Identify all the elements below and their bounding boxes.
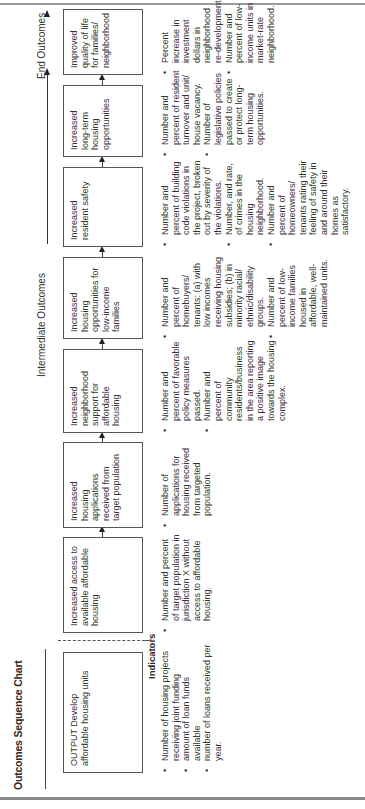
intermediate-outcomes-label: Intermediate Outcomes: [36, 273, 47, 377]
chart-title: Outcomes Sequence Chart: [12, 660, 24, 790]
indicator-item: Number and percent of favorable policy m…: [160, 339, 202, 421]
indicator-item: Number and percent of low-income familie…: [266, 247, 330, 327]
indicator-item: Number and percent of target population …: [160, 531, 213, 621]
intermediate-outcomes-arrow: [47, 74, 48, 244]
box-access-affordable-housing: Increased access to available affordable…: [63, 537, 143, 633]
indicators-long-term: Number and percent of resident turnover …: [160, 69, 266, 157]
box-resident-safety: Increased resident safety: [63, 167, 143, 247]
indicators-low-income: Number and percent of homebuyers/ tenant…: [160, 247, 330, 339]
indicator-item: Number and percent of community resident…: [202, 339, 287, 421]
indicators-safety: Number and percent of building code viol…: [160, 155, 351, 247]
flow-arrow-3: [102, 343, 103, 349]
outcomes-sequence-chart-page: Outcomes Sequence Chart Intermediate Out…: [0, 0, 365, 809]
indicator-item: Number of housing projects receiving joi…: [160, 643, 181, 761]
output-outcome-divider: [58, 640, 150, 641]
end-outcomes-label: End Outcomes: [36, 13, 47, 79]
indicators-quality-of-life: Percent increase in investment dollars i…: [160, 0, 277, 75]
indicator-item: Number and percent of resident turnover …: [160, 69, 202, 145]
flow-arrow-5: [102, 161, 103, 167]
flow-arrow-1: [102, 531, 103, 537]
indicator-item: Number and percent of low-income units i…: [224, 0, 277, 63]
box-housing-applications: Increased housing applications received …: [63, 442, 143, 528]
indicators-output: Number of housing projects receiving joi…: [160, 643, 224, 773]
box-long-term-housing: Increased long-term housing opportunitie…: [63, 85, 143, 157]
flow-arrow-2: [102, 437, 103, 442]
indicator-item: Number and percent of building code viol…: [160, 155, 224, 235]
indicator-item: Number and percent of homebuyers/ tenant…: [160, 247, 266, 327]
indicators-access: Number and percent of target population …: [160, 531, 213, 633]
indicator-item: Percent increase in investment dollars i…: [160, 0, 224, 63]
box-quality-of-life: Improved quality of life for families/ n…: [63, 9, 143, 75]
page-edge-bottom: [0, 797, 365, 800]
indicator-item: amount of loan funds available: [181, 643, 202, 761]
indicators-neighborhood-support: Number and percent of favorable policy m…: [160, 339, 287, 433]
flow-arrow-4: [102, 251, 103, 257]
indicators-applications: Number of applications for housing recei…: [160, 432, 213, 528]
indicator-item: Number and percent of homeowners/ tenant…: [266, 155, 351, 235]
indicator-item: Number of applications for housing recei…: [160, 432, 213, 516]
box-neighborhood-support: Increased neighborhood support for affor…: [63, 349, 143, 433]
indicator-item: Number, and rate, of crimes in the housi…: [224, 155, 266, 235]
box-low-income-opportunities: Increased housing opportunities for low-…: [63, 257, 143, 339]
title-rule: [45, 649, 46, 789]
box-output: OUTPUT Develop affordable housing units: [63, 652, 143, 773]
indicator-item: Number of legislative policies passed to…: [202, 69, 266, 145]
indicator-item: number of loans received per year.: [202, 643, 223, 761]
flow-arrow-6: [102, 79, 103, 85]
indicators-heading: Indicators: [146, 634, 157, 679]
